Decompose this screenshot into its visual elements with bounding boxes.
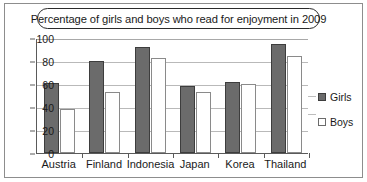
y-tick-mark-80: [30, 62, 35, 63]
bar-group: [173, 39, 218, 153]
chart-figure: Percentage of girls and boys who read fo…: [0, 0, 367, 182]
legend-label-girls: Girls: [330, 91, 352, 103]
x-tick-mark: [309, 153, 310, 158]
x-tick-label-thailand: Thailand: [263, 158, 308, 170]
x-tick-label-japan: Japan: [172, 158, 217, 170]
y-tick-mark-0: [30, 154, 35, 155]
bar-boys-korea: [241, 84, 256, 153]
y-tick-mark-40: [30, 108, 35, 109]
bar-girls-austria: [44, 83, 59, 153]
bar-boys-japan: [196, 92, 211, 153]
y-tick-mark-60: [30, 85, 35, 86]
legend-swatch-boys-icon: [318, 118, 326, 126]
bar-girls-indonesia: [135, 47, 150, 153]
bar-boys-austria: [60, 109, 75, 153]
bar-group: [218, 39, 263, 153]
bar-boys-thailand: [287, 56, 302, 153]
bar-group: [82, 39, 127, 153]
bar-girls-thailand: [271, 44, 286, 153]
x-tick-label-finland: Finland: [81, 158, 126, 170]
x-tick-label-austria: Austria: [36, 158, 81, 170]
bar-group: [264, 39, 309, 153]
legend-swatch-girls-icon: [318, 93, 326, 101]
x-tick-label-korea: Korea: [217, 158, 262, 170]
bar-girls-japan: [180, 86, 195, 153]
legend-item-girls: Girls: [318, 88, 364, 105]
legend-connector: [308, 114, 316, 115]
bar-girls-korea: [225, 82, 240, 153]
y-tick-mark-20: [30, 131, 35, 132]
x-tick-label-indonesia: Indonesia: [127, 158, 172, 170]
legend-item-boys: Boys: [318, 113, 364, 130]
y-tick-mark-100: [30, 39, 35, 40]
bar-boys-finland: [105, 92, 120, 153]
legend-connector: [308, 96, 316, 97]
bar-group: [128, 39, 173, 153]
chart-title: Percentage of girls and boys who read fo…: [31, 13, 327, 25]
bar-girls-finland: [89, 61, 104, 153]
plot-area: [36, 39, 308, 154]
chart-legend: Girls Boys: [318, 88, 364, 138]
chart-title-box: Percentage of girls and boys who read fo…: [37, 8, 320, 29]
legend-label-boys: Boys: [330, 116, 353, 128]
bar-boys-indonesia: [151, 58, 166, 153]
